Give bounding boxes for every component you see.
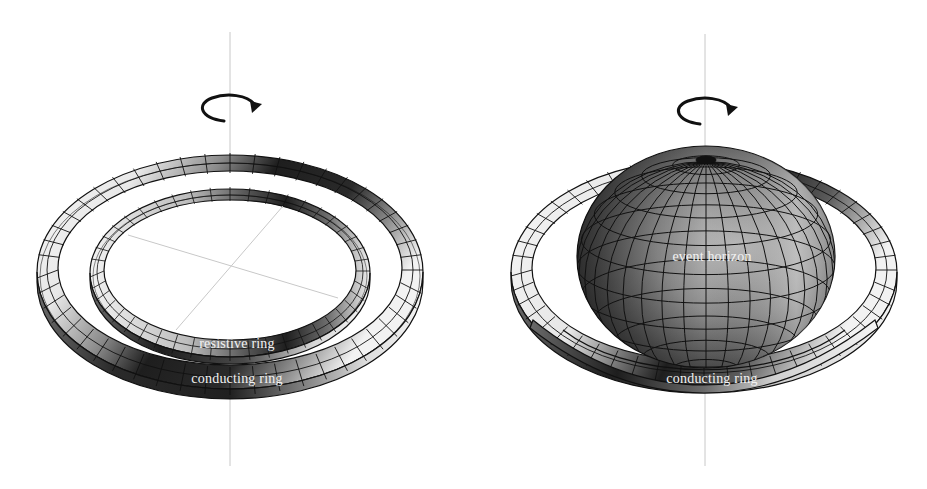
right-panel-black-hole: event horizon conducting ring: [463, 0, 927, 489]
conducting-ring-label: conducting ring: [666, 371, 757, 387]
two-rings-diagram: [0, 0, 463, 489]
left-panel-two-rings: resistive ring conducting ring: [0, 0, 463, 489]
conducting-ring-label: conducting ring: [191, 371, 282, 387]
rotation-arrow-icon: [202, 95, 262, 121]
event-horizon-label: event horizon: [672, 249, 751, 265]
rotation-arrow-icon: [678, 98, 738, 124]
black-hole-ring-diagram: [463, 0, 927, 489]
resistive-ring-label: resistive ring: [199, 336, 275, 352]
